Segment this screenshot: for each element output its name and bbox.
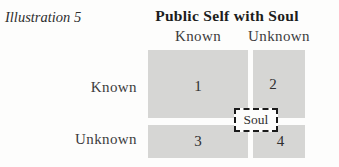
quadrant-number: 4 [277, 133, 285, 150]
figure-title: Public Self with Soul [155, 7, 299, 25]
quadrant-1: 1 [148, 50, 248, 118]
row-header-known: Known [91, 79, 137, 96]
column-header-known: Known [175, 28, 221, 45]
row-header-unknown: Unknown [75, 131, 137, 148]
column-header-unknown: Unknown [248, 28, 310, 45]
quadrant-number: 1 [194, 78, 202, 95]
quadrant-number: 3 [194, 133, 202, 150]
soul-overlay-box: Soul [234, 108, 278, 132]
illustration-label: Illustration 5 [5, 9, 81, 26]
soul-label: Soul [244, 112, 269, 128]
quadrant-number: 2 [269, 76, 277, 93]
illustration-figure: Illustration 5 Public Self with Soul Kno… [0, 0, 339, 167]
quadrant-3: 3 [148, 125, 248, 158]
